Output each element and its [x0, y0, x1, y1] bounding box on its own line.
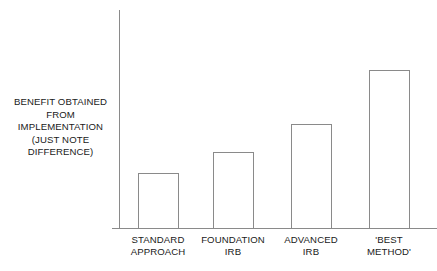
category-label-line-1: 'BEST: [341, 234, 437, 246]
bar-best-method: [369, 70, 410, 229]
bar-advanced-irb: [291, 124, 332, 229]
bar-chart-figure: BENEFIT OBTAINED FROM IMPLEMENTATION (JU…: [0, 0, 437, 271]
y-axis-line: [119, 10, 120, 229]
plot-area: [0, 0, 437, 271]
bar-standard-approach: [138, 173, 179, 229]
category-label-line-2: METHOD': [341, 246, 437, 258]
bar-foundation-irb: [213, 152, 254, 229]
category-label-best-method: 'BEST METHOD': [341, 234, 437, 259]
